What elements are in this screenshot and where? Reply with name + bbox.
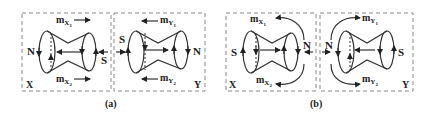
box-name-label: Y — [402, 79, 410, 90]
panel-caption: (b) — [310, 98, 322, 110]
panel-caption: (a) — [105, 98, 117, 110]
pole-right-label: N — [303, 39, 311, 51]
moment-top-label: mX1 — [56, 14, 72, 28]
magnetic-domain-diagram: N S mX1 mX2 X — [0, 0, 427, 117]
moment-top-label: mY1 — [362, 12, 378, 26]
hourglass-cylinder-icon — [128, 31, 188, 73]
pole-right-label: N — [193, 45, 201, 57]
box-name-label: X — [26, 79, 34, 90]
pole-right-label: S — [398, 46, 404, 58]
hourglass-cylinder-icon — [39, 31, 96, 73]
panel-a: N S mX1 mX2 X — [22, 13, 205, 110]
hourglass-cylinder-icon — [338, 31, 394, 73]
pole-left-label: N — [325, 39, 333, 51]
pole-left-label: N — [27, 45, 35, 57]
pole-right-label: S — [101, 54, 107, 66]
panel-b-box-x: S N mX1 mX2 X — [226, 13, 316, 91]
panel-a-box-x: N S mX1 mX2 X — [22, 13, 111, 91]
curved-field-bottom-arrow-icon — [276, 64, 304, 84]
hourglass-cylinder-icon — [243, 31, 298, 73]
moment-top-label: mX1 — [250, 13, 266, 27]
pole-left-label: S — [119, 33, 125, 45]
box-name-label: X — [229, 79, 237, 90]
panel-a-box-y: S N mY1 mY2 Y — [114, 13, 205, 91]
panel-b: S N mX1 mX2 X — [226, 12, 413, 110]
moment-bottom-label: mY2 — [160, 72, 176, 86]
panel-b-box-y: N S mY1 mY2 Y — [320, 12, 413, 91]
pole-left-label: S — [231, 46, 237, 58]
moment-bottom-label: mX2 — [256, 74, 272, 88]
curved-field-top-arrow-icon — [276, 18, 304, 40]
moment-bottom-label: mX2 — [56, 73, 72, 87]
moment-top-label: mY1 — [160, 14, 176, 28]
dashed-boundary — [226, 13, 316, 91]
moment-bottom-label: mY2 — [362, 73, 378, 87]
box-name-label: Y — [194, 79, 202, 90]
